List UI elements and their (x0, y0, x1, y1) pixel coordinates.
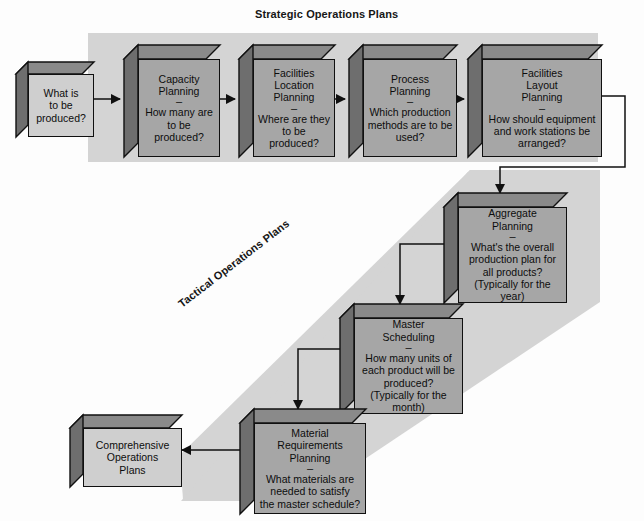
node-body-line: all products? (483, 266, 543, 278)
node-title-line: Facilities (274, 67, 315, 79)
node-body-line: How many units of (365, 352, 451, 364)
node-capacity-planning[interactable]: Capacity Planning – How many are to be p… (124, 45, 220, 157)
node-master-scheduling[interactable]: Master Scheduling – How many units of ea… (340, 304, 463, 414)
node-body-line: What's the overall (471, 241, 554, 253)
node-dash: – (176, 97, 182, 106)
node-body-line: each product will be (362, 364, 455, 376)
node-body-line: to be produced? (142, 119, 216, 144)
node-title-line: Facilities (522, 67, 563, 79)
node-facilities-layout-planning[interactable]: Facilities Layout Planning – How should … (468, 45, 602, 157)
node-body-line: arranged? (518, 137, 566, 149)
node-body-line: and work stations be (494, 125, 590, 137)
node-dash: – (407, 97, 413, 106)
node-dash: – (307, 464, 313, 473)
node-title-line: Requirements (277, 439, 342, 451)
node-process-planning[interactable]: Process Planning – Which production meth… (349, 45, 457, 157)
node-material-requirements-planning[interactable]: Material Requirements Planning – What ma… (240, 409, 366, 514)
node-title-line: Layout (526, 79, 558, 91)
node-what-is-to-be-produced[interactable]: What is to be produced? (16, 62, 94, 137)
node-line: produced? (36, 112, 86, 124)
strategic-operations-plans-title: Strategic Operations Plans (255, 8, 398, 20)
node-body-line: What materials are (266, 473, 354, 485)
node-body-line: produced? (384, 377, 434, 389)
node-body-line: year) (501, 290, 525, 302)
node-body-line: How many are (145, 106, 213, 118)
node-line: Comprehensive (96, 439, 170, 451)
node-aggregate-planning[interactable]: Aggregate Planning – What's the overall … (444, 193, 567, 303)
node-body-line: needed to satisfy (270, 485, 349, 497)
node-body-line: production plan for (469, 253, 556, 265)
node-body-line: (Typically for the (474, 278, 550, 290)
node-line: What is (43, 87, 78, 99)
node-body-line: Where are they (258, 113, 330, 125)
node-body-line: month) (392, 401, 425, 413)
node-title-line: Process (391, 73, 429, 85)
node-title-line: Capacity (159, 73, 200, 85)
node-body-line: (Typically for the (370, 389, 446, 401)
node-line: Plans (119, 464, 145, 476)
node-body-line: How should equipment (489, 113, 596, 125)
node-body-line: methods are to be (368, 119, 453, 131)
node-line: Operations (107, 451, 158, 463)
node-body-line: to be produced? (257, 125, 331, 150)
node-dash: – (509, 232, 515, 241)
node-body-line: used? (396, 131, 425, 143)
node-title-line: Master (392, 318, 424, 330)
node-body-line: the master schedule? (260, 498, 360, 510)
node-comprehensive-operations-plans[interactable]: Comprehensive Operations Plans (70, 415, 182, 487)
node-title-line: Location (274, 79, 314, 91)
node-facilities-location-planning[interactable]: Facilities Location Planning – Where are… (239, 45, 335, 157)
node-line: to be (49, 99, 72, 111)
tactical-operations-plans-title: Tactical Operations Plans (176, 217, 291, 309)
node-dash: – (539, 104, 545, 113)
node-dash: – (291, 104, 297, 113)
node-title-line: Material (291, 427, 328, 439)
operations-planning-diagram: Strategic Operations Plans Tactical Oper… (0, 0, 644, 521)
node-body-line: Which production (369, 106, 450, 118)
node-title-line: Aggregate (488, 207, 536, 219)
node-dash: – (405, 343, 411, 352)
